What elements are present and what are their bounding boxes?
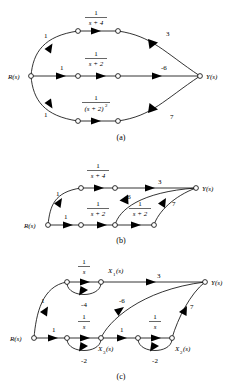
panel-a-gain-bot-in: 1 [44, 111, 48, 119]
arrowhead-b-seven [158, 198, 166, 208]
arrowhead-c-t1 [80, 279, 90, 286]
panel-b: R(s) Y(s) 1 1 3 -6 7 1 s + 4 1 s + 2 1 s… [0, 148, 242, 256]
panel-a-gain-bot-out: 7 [170, 113, 174, 121]
panel-c-integrator-right-den: s [154, 323, 157, 331]
arrowhead-bottom-right [148, 103, 158, 113]
node-a-bot-1 [76, 119, 81, 124]
panel-c-feedback-minus4: -4 [81, 301, 87, 309]
panel-a-transfer-bot-den: (s + 2) [84, 105, 104, 113]
panel-a-transfer-mid-num: 1 [94, 50, 98, 58]
panel-c-integrator-right: 1 s [149, 313, 161, 331]
panel-a-caption: (a) [0, 133, 242, 142]
node-c-x1 [99, 280, 104, 285]
arrowhead-c-b4 [151, 335, 161, 342]
arrowhead-mid-2 [96, 73, 106, 80]
panel-a-graph: R(s) Y(s) 1 1 1 3 -6 7 1 s + 4 1 s + 2 1… [0, 0, 242, 148]
panel-c-x2-arg: (s) [183, 345, 191, 353]
panel-a-gain-top-in: 1 [44, 32, 48, 40]
arrowhead-bottom-left [45, 99, 53, 109]
panel-c: R(s) Y(s) 1 1 1 3 -6 7 -4 -2 -2 1 s 1 s … [0, 256, 242, 390]
panel-c-gain-in: 1 [52, 326, 56, 334]
panel-c-gain-3: 3 [157, 272, 161, 280]
node-c-top-1 [65, 280, 70, 285]
panel-b-transfer-top-den: s + 4 [91, 172, 106, 180]
arrowhead-b-b3 [131, 222, 141, 229]
panel-a: R(s) Y(s) 1 1 1 3 -6 7 1 s + 4 1 s + 2 1… [0, 0, 242, 148]
edge-top-right-curve [118, 31, 200, 76]
panel-c-integrator-top-den: s [83, 268, 86, 276]
panel-a-transfer-top-den: s + 4 [89, 19, 104, 27]
node-c-x3 [99, 336, 104, 341]
panel-b-gain-in: 1 [64, 213, 68, 221]
panel-c-state-label-x1: X 1 (s) [107, 267, 124, 277]
panel-a-transfer-mid: 1 s + 2 [85, 50, 107, 68]
panel-b-transfer-mid1-num: 1 [96, 200, 100, 208]
panel-b-transfer-mid2-num: 1 [138, 200, 142, 208]
panel-b-transfer-top-num: 1 [96, 162, 100, 170]
panel-c-integrator-mid-num: 1 [82, 313, 86, 321]
arrowhead-b-up [54, 198, 62, 208]
panel-c-gain-minus6: -6 [119, 297, 125, 305]
panel-a-gain-mid-in: 1 [60, 64, 64, 72]
arrowhead-top-mid [91, 28, 101, 35]
node-output-b [194, 186, 199, 191]
panel-c-gain-up: 1 [41, 297, 45, 305]
panel-b-transfer-mid1-den: s + 2 [91, 210, 106, 218]
arrowhead-b-b2 [97, 222, 107, 229]
node-c-bot-1 [65, 336, 70, 341]
node-b-top-2 [113, 186, 118, 191]
node-b-top-1 [79, 186, 84, 191]
node-c-x2 [170, 336, 175, 341]
panel-c-integrator-mid-den: s [83, 323, 86, 331]
panel-c-feedback-minus2-right: -2 [152, 357, 158, 365]
panel-c-input-label: R(s) [9, 335, 22, 343]
panel-b-output-label: Y(s) [202, 185, 214, 193]
panel-c-gain-7: 7 [190, 303, 194, 311]
panel-c-x1-arg: (s) [116, 267, 124, 275]
node-c-bot-3 [136, 336, 141, 341]
arrowhead-mid-1 [56, 73, 66, 80]
node-a-top-2 [116, 29, 121, 34]
panel-b-gain-7: 7 [172, 200, 176, 208]
node-output-a [198, 74, 203, 79]
node-input-b [46, 223, 51, 228]
edge-bottom-left-curve [31, 76, 78, 121]
panel-b-input-label: R(s) [23, 222, 36, 230]
arrowhead-mid-3 [152, 73, 162, 80]
panel-c-integrator-right-num: 1 [153, 313, 157, 321]
panel-a-transfer-bot: 1 (s + 2) 2 [82, 94, 110, 113]
arrowhead-c-t2 [146, 279, 156, 286]
node-input-c [32, 336, 37, 341]
node-a-bot-2 [116, 119, 121, 124]
panel-c-integrator-top-num: 1 [82, 258, 86, 266]
arrowhead-c-b2 [80, 335, 90, 342]
panel-a-gain-top-out: 3 [166, 30, 170, 38]
panel-a-transfer-bot-num: 1 [94, 94, 98, 102]
edge-top-left-curve [31, 31, 78, 76]
node-a-mid-2 [116, 74, 121, 79]
panel-a-transfer-top: 1 s + 4 [85, 9, 107, 27]
panel-c-integrator-mid: 1 s [78, 313, 90, 331]
panel-c-gain-mid: 1 [120, 326, 124, 334]
panel-c-x3-arg: (s) [106, 345, 114, 353]
panel-a-transfer-top-num: 1 [94, 9, 98, 17]
panel-b-gain-up: 1 [56, 190, 60, 198]
arrowhead-top-right [148, 39, 158, 49]
panel-c-feedback-minus2-left: -2 [81, 357, 87, 365]
arrowhead-c-b1 [48, 335, 58, 342]
node-output-c [203, 280, 208, 285]
panel-b-caption: (b) [0, 236, 242, 245]
arrowhead-bottom-mid [91, 118, 101, 125]
edge-c-up-curve [34, 282, 67, 338]
panel-c-state-label-x3: X 3 (s) [97, 345, 114, 355]
panel-a-transfer-mid-den: s + 2 [89, 60, 104, 68]
arrowhead-b-b1 [63, 222, 73, 229]
arrowhead-c-up [40, 307, 48, 317]
panel-b-transfer-top: 1 s + 4 [87, 162, 109, 180]
node-b-bot-2 [113, 223, 118, 228]
panel-b-gain-minus6: -6 [125, 193, 131, 201]
panel-b-transfer-mid1: 1 s + 2 [87, 200, 109, 218]
arrowhead-b-t1 [94, 185, 104, 192]
panel-b-transfer-mid2: 1 s + 2 [129, 200, 151, 218]
arrowhead-c-minus6 [114, 307, 124, 316]
